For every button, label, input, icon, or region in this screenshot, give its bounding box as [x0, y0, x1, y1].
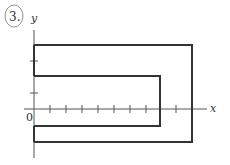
inner-rectangle — [34, 76, 160, 126]
diagram: 3. y 0 x — [0, 0, 230, 165]
problem-number: 3. — [9, 10, 20, 24]
x-axis-label: x — [210, 102, 217, 115]
origin-label: 0 — [26, 111, 33, 124]
outer-rectangle — [34, 45, 192, 142]
y-axis-label: y — [30, 12, 38, 25]
axes — [24, 30, 207, 158]
axis-ticks — [30, 61, 176, 113]
